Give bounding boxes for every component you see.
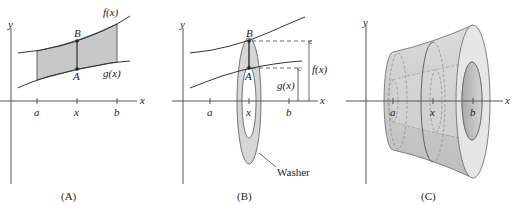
point-label-a: A	[244, 70, 252, 82]
tick-label-b: b	[114, 106, 120, 118]
x-axis-label: x	[504, 94, 510, 106]
tick-label-b: b	[470, 106, 476, 118]
x-axis-label: x	[319, 94, 325, 106]
curve-label-g: g(x)	[103, 67, 121, 80]
point-label-b: B	[246, 27, 253, 39]
point-b	[247, 39, 251, 43]
tick-label-b: b	[286, 106, 292, 118]
y-axis-label: y	[7, 18, 13, 30]
y-axis-label: y	[362, 16, 368, 28]
point-label-a: A	[72, 70, 80, 82]
tick-label-a: a	[34, 106, 40, 118]
caption-b: (B)	[237, 190, 252, 203]
tick-label-x: x	[245, 106, 251, 118]
panel-c: y x a x b (C)	[346, 16, 510, 203]
y-axis-label: y	[179, 18, 185, 30]
point-label-b: B	[74, 27, 81, 39]
panel-a: y x a x b f(x) g(x) B A (A)	[0, 6, 145, 203]
washer-leader-line	[259, 153, 276, 167]
dimension-label-g: g(x)	[277, 79, 295, 92]
panel-b: y x a x b B A f(x) g(x) Washer (B)	[172, 17, 328, 203]
curve-label-f: f(x)	[103, 6, 119, 19]
figure-canvas: y x a x b f(x) g(x) B A (A)	[0, 0, 514, 211]
tick-label-a: a	[207, 106, 213, 118]
tick-label-x: x	[73, 106, 79, 118]
point-b	[75, 39, 79, 43]
x-axis-label: x	[139, 94, 145, 106]
dimension-label-f: f(x)	[312, 63, 328, 76]
washer-label: Washer	[277, 166, 310, 178]
caption-a: (A)	[61, 190, 77, 203]
tick-label-a: a	[390, 106, 396, 118]
tick-label-x: x	[429, 106, 435, 118]
caption-c: (C)	[421, 190, 436, 203]
